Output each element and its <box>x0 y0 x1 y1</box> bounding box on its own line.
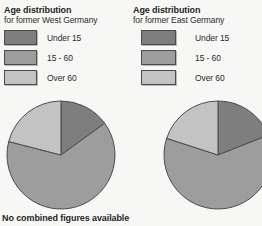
legend-swatch-15-60 <box>4 50 37 65</box>
figure-note: No combined figures available <box>2 213 129 223</box>
legend-label-over-60: Over 60 <box>47 73 77 83</box>
legend-label-under-15: Under 15 <box>195 33 229 43</box>
panel-east-germany: Age distribution for former East Germany… <box>131 0 262 226</box>
legend-label-15-60: 15 - 60 <box>195 53 221 63</box>
legend-swatch-under-15 <box>141 30 176 45</box>
legend-swatch-15-60 <box>141 50 176 65</box>
legend-item-15-60: 15 - 60 <box>131 50 262 64</box>
legend-item-under-15: Under 15 <box>0 30 131 44</box>
chart-title-east: Age distribution <box>133 5 200 15</box>
legend-swatch-over-60 <box>4 70 37 85</box>
chart-title-west: Age distribution <box>4 5 71 15</box>
legend-item-over-60: Over 60 <box>131 70 262 84</box>
pie-chart-west-germany <box>1 95 121 215</box>
legend-item-15-60: 15 - 60 <box>0 50 131 64</box>
legend-swatch-over-60 <box>141 70 176 85</box>
pie-chart-east-germany <box>158 95 262 215</box>
legend-swatch-under-15 <box>4 30 37 45</box>
legend-label-15-60: 15 - 60 <box>47 53 73 63</box>
legend-label-over-60: Over 60 <box>195 73 225 83</box>
legend-item-under-15: Under 15 <box>131 30 262 44</box>
legend-item-over-60: Over 60 <box>0 70 131 84</box>
legend-label-under-15: Under 15 <box>47 33 81 43</box>
chart-subtitle-west: for former West Germany <box>4 15 97 25</box>
panel-west-germany: Age distribution for former West Germany… <box>0 0 131 226</box>
chart-subtitle-east: for former East Germany <box>133 15 224 25</box>
figure-age-distribution: Age distribution for former West Germany… <box>0 0 262 226</box>
